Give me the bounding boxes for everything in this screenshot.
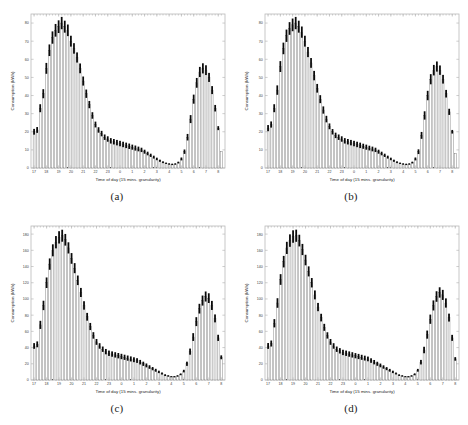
error-bar-cap <box>384 154 386 157</box>
error-bar-cap <box>295 230 297 242</box>
x-tick-label: 20 <box>69 170 73 174</box>
error-bar-cap <box>121 354 123 359</box>
x-tick-label: 4 <box>402 170 404 174</box>
bar <box>67 248 69 380</box>
error-bar-cap <box>131 145 133 150</box>
error-bar-cap <box>305 255 307 266</box>
bar <box>208 77 210 168</box>
bar <box>270 125 272 168</box>
x-tick-label: 18 <box>279 382 283 386</box>
error-bar-cap <box>404 376 406 377</box>
y-tick-label: 60 <box>25 58 29 62</box>
bar <box>49 264 51 380</box>
error-bar-cap <box>289 22 291 35</box>
x-tick-label: 2 <box>144 170 146 174</box>
bar <box>39 325 41 380</box>
error-bar-cap <box>395 373 397 375</box>
error-bar-cap <box>341 136 343 141</box>
error-bar-cap <box>336 347 338 352</box>
bar <box>445 303 447 380</box>
error-bar-cap <box>361 355 363 360</box>
error-bar-cap <box>338 134 340 139</box>
bar <box>70 41 72 168</box>
error-bar-cap <box>181 157 183 160</box>
error-bar-cap <box>424 111 426 119</box>
y-axis-title: Consumption (kWh) <box>10 71 15 110</box>
bar <box>348 354 350 380</box>
y-tick-label: 40 <box>25 346 29 350</box>
error-bar-cap <box>423 347 425 353</box>
error-bar-cap <box>401 375 403 376</box>
error-bar-cap <box>122 142 124 147</box>
error-bar-cap <box>134 146 136 151</box>
error-bar-cap <box>420 360 422 365</box>
bar <box>368 148 370 168</box>
error-bar-cap <box>286 242 288 254</box>
plot-area-d: 0204060801001201401601801718192021222301… <box>234 212 468 424</box>
error-bar-cap <box>86 313 88 321</box>
error-bar-cap <box>367 357 369 362</box>
x-tick-label: 5 <box>183 382 185 386</box>
x-tick-label: 0 <box>354 382 356 386</box>
bar <box>205 70 207 168</box>
bar <box>356 144 358 168</box>
bar <box>353 144 355 168</box>
error-bar-cap <box>159 160 161 162</box>
error-bar-cap <box>193 95 195 104</box>
bar <box>133 360 135 380</box>
y-axis-title: Consumption (kWh) <box>244 283 249 322</box>
bar <box>195 322 197 380</box>
bar <box>320 318 322 380</box>
bar <box>208 298 210 380</box>
x-tick-label: 4 <box>170 382 172 386</box>
bar <box>339 351 341 380</box>
error-bar-cap <box>439 65 441 74</box>
error-bar-cap <box>55 24 57 37</box>
error-bar-cap <box>105 349 107 354</box>
error-bar-cap <box>350 140 352 145</box>
error-bar-cap <box>322 106 324 113</box>
error-bar-cap <box>98 127 100 132</box>
bar <box>99 346 101 380</box>
bar <box>304 41 306 168</box>
error-bar-cap <box>326 116 328 123</box>
plot-area-b: 0102030405060708017181920212223012345678… <box>234 0 468 212</box>
y-tick-label: 160 <box>257 249 263 253</box>
error-bar-cap <box>119 141 121 146</box>
x-tick-label: 4 <box>404 382 406 386</box>
y-tick-label: 20 <box>25 362 29 366</box>
x-tick-label: 7 <box>208 382 210 386</box>
bar <box>64 240 66 380</box>
error-bar-cap <box>405 164 407 165</box>
y-tick-label: 40 <box>259 346 263 350</box>
error-bar-cap <box>442 290 444 300</box>
error-bar-cap <box>167 375 169 376</box>
bar <box>214 318 216 380</box>
error-bar-cap <box>199 304 201 314</box>
error-bar-cap <box>153 156 155 159</box>
bar <box>95 125 97 168</box>
bar <box>364 358 366 380</box>
bar <box>322 110 324 168</box>
y-tick-label: 30 <box>25 112 29 116</box>
bar <box>270 344 272 380</box>
x-tick-label: 0 <box>119 170 121 174</box>
error-bar-cap <box>314 290 316 299</box>
x-tick-label: 3 <box>156 170 158 174</box>
bar <box>298 27 300 168</box>
x-tick-label: 8 <box>454 382 456 386</box>
x-tick-label: 7 <box>442 382 444 386</box>
y-tick-label: 40 <box>259 94 263 98</box>
bar <box>114 355 116 380</box>
error-bar-cap <box>39 321 41 329</box>
bar <box>202 68 204 168</box>
error-bar-cap <box>313 71 315 80</box>
y-tick-label: 80 <box>259 21 263 25</box>
bar <box>190 119 192 168</box>
x-tick-label: 22 <box>93 170 97 174</box>
error-bar-cap <box>217 335 219 341</box>
error-bar-cap <box>107 136 109 141</box>
error-bar-cap <box>442 75 444 84</box>
error-bar-cap <box>332 129 334 134</box>
error-bar-cap <box>139 360 141 365</box>
